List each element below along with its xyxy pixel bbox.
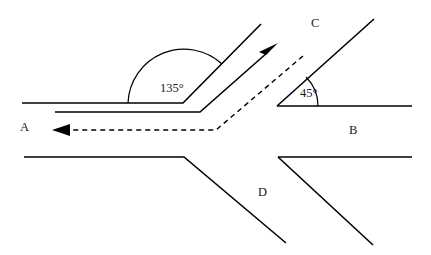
dashed-arrow-head-left-icon [52, 124, 70, 136]
angle-label-135: 135° [160, 81, 184, 95]
right-upper-diagonal-line [277, 19, 374, 106]
region-label-d: D [258, 185, 267, 199]
geometry-diagram-canvas: 135° 45° A B C D [0, 0, 431, 255]
lower-left-bent-line [24, 157, 286, 243]
diagram-svg: 135° 45° A B C D [0, 0, 431, 255]
lower-right-diagonal-line [278, 157, 373, 245]
region-label-c: C [311, 16, 319, 30]
region-label-a: A [20, 120, 29, 134]
upper-left-bent-line [22, 24, 261, 103]
angle-label-45: 45° [300, 86, 318, 100]
region-label-b: B [349, 123, 357, 137]
